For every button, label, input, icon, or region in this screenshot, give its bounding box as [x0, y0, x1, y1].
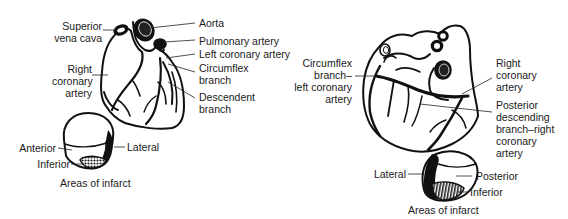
label-inferior-right: Inferior [470, 186, 503, 198]
label-line: branch [199, 74, 249, 86]
label-line: Circumflex [288, 57, 352, 69]
label-lateral-right: Lateral [356, 168, 406, 180]
label-line: coronary [496, 69, 537, 81]
label-line: coronary [52, 75, 92, 87]
label-line: coronary [496, 135, 554, 147]
label-line: artery [496, 81, 537, 93]
label-circumflex-branch: Circumflex branch [199, 62, 249, 86]
label-line: Right [52, 63, 92, 75]
label-line: Superior [52, 20, 102, 32]
label-line: branch [199, 103, 255, 115]
label-line: vena cava [52, 32, 102, 44]
label-right-coronary-artery-left: Right coronary artery [52, 63, 92, 99]
label-line: artery [52, 87, 92, 99]
label-posterior-descending-branch: Posterior descending branch–right corona… [496, 99, 554, 159]
label-line: branch–right [496, 123, 554, 135]
label-line: descending [496, 111, 554, 123]
posterior-heart-drawing [363, 25, 478, 151]
label-pulmonary-artery: Pulmonary artery [199, 35, 279, 47]
label-inferior-left: Inferior [20, 158, 70, 170]
label-posterior: Posterior [476, 170, 518, 182]
label-line: artery [288, 93, 352, 105]
label-aorta: Aorta [199, 17, 224, 29]
label-line: Right [496, 57, 537, 69]
label-line: left coronary [288, 81, 352, 93]
label-line: Posterior [496, 99, 554, 111]
posterior-infarct-diagram [408, 151, 478, 201]
label-anterior: Anterior [10, 142, 56, 154]
label-left-coronary-artery: Left coronary artery [199, 48, 290, 60]
caption-areas-of-infarct-left: Areas of infarct [60, 177, 131, 189]
label-line: artery [496, 147, 554, 159]
label-line: Circumflex [199, 62, 249, 74]
label-right-coronary-artery-right: Right coronary artery [496, 57, 537, 93]
label-line: Descendent [199, 91, 255, 103]
label-line: branch– [288, 69, 352, 81]
label-circumflex-branch-left-coronary: Circumflex branch– left coronary artery [288, 57, 352, 105]
label-descendent-branch: Descendent branch [199, 91, 255, 115]
caption-areas-of-infarct-right: Areas of infarct [408, 204, 479, 216]
label-lateral-left: Lateral [127, 141, 159, 153]
label-superior-vena-cava: Superior vena cava [52, 20, 102, 44]
